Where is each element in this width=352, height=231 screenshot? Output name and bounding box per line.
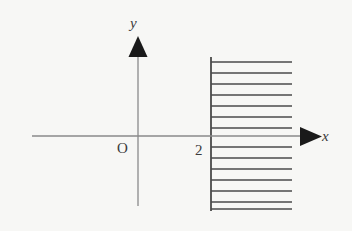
origin-label: O [117,141,128,156]
boundary-tick-label: 2 [195,143,203,158]
hatch-lines-below-axis [211,147,292,209]
coordinate-diagram-svg [0,0,352,231]
hatched-region [211,57,292,211]
math-figure-canvas: y x O 2 [0,0,352,231]
x-axis-arrowhead-icon [300,127,322,146]
y-axis-label: y [130,16,137,31]
hatch-lines-above-axis [211,62,292,128]
x-axis-label: x [322,129,329,144]
y-axis-arrowhead-icon [129,36,148,57]
